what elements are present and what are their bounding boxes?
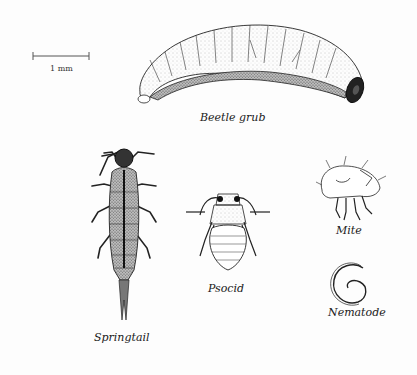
springtail-label: Springtail xyxy=(94,331,150,344)
mite-label: Mite xyxy=(336,224,362,237)
scale-bar-label: 1 mm xyxy=(50,64,73,73)
psocid-label: Psocid xyxy=(208,282,244,295)
scale-bar xyxy=(33,52,89,60)
psocid-illustration xyxy=(186,194,270,270)
beetle-grub-illustration xyxy=(138,25,367,105)
nematode-illustration xyxy=(331,263,366,305)
springtail-body xyxy=(109,149,139,320)
nematode-label: Nematode xyxy=(328,306,386,319)
mite-illustration xyxy=(316,156,386,220)
beetle-grub-label: Beetle grub xyxy=(200,111,265,124)
